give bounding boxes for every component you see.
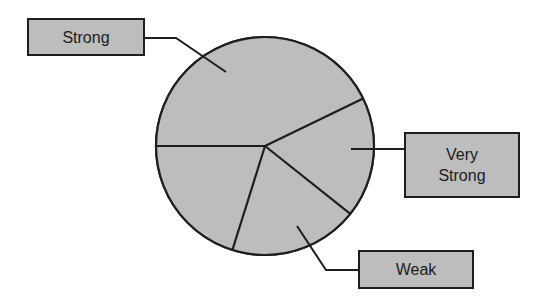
callout-label-very-strong: Very Strong (438, 144, 485, 186)
pie-slices (156, 37, 374, 255)
callout-label-weak: Weak (396, 259, 437, 280)
callout-strong: Strong (27, 18, 145, 56)
callout-very-strong: Very Strong (404, 132, 520, 198)
callout-weak: Weak (358, 250, 474, 289)
callout-label-strong: Strong (62, 27, 109, 48)
